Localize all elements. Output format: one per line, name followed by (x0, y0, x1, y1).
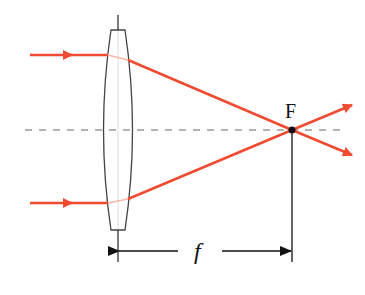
bottom-refracted-ray (128, 130, 292, 199)
top-refracted-ray (128, 60, 292, 130)
top-ray-past-focus (292, 130, 352, 155)
focal-length-label: f (194, 238, 204, 264)
focal-point-label: F (285, 100, 296, 122)
bottom-ray-past-focus (292, 105, 352, 130)
lens-diagram: F f (0, 0, 365, 295)
